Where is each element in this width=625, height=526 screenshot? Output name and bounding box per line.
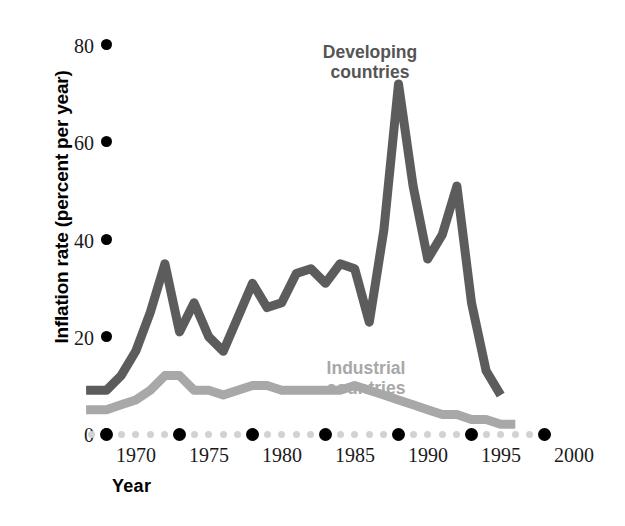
x-tick-dot-minor (220, 431, 227, 438)
series-line-developing-countries (86, 84, 501, 395)
x-tick-dot-major (100, 428, 113, 441)
inflation-rate-line-chart: Inflation rate (percent per year) 80 60 … (0, 0, 625, 526)
x-tick-label-1980: 1980 (247, 444, 317, 467)
x-tick-dot-minor (410, 431, 417, 438)
x-tick-label-1990: 1990 (393, 444, 463, 467)
x-tick-dot-minor (293, 431, 300, 438)
x-tick-dot-minor (191, 431, 198, 438)
developing-countries-label: Developing countries (300, 42, 440, 82)
x-tick-dot-major (173, 428, 186, 441)
x-tick-dot-minor (118, 431, 125, 438)
x-tick-dot-major (465, 428, 478, 441)
industrial-countries-label: Industrial countries (296, 358, 436, 398)
x-tick-dot-major (246, 428, 259, 441)
x-tick-dot-minor (337, 431, 344, 438)
x-tick-label-1970: 1970 (101, 444, 171, 467)
x-tick-dot-minor (366, 431, 373, 438)
x-tick-label-1975: 1975 (174, 444, 244, 467)
x-tick-dot-minor (147, 431, 154, 438)
x-tick-dot-minor (264, 431, 271, 438)
x-tick-label-1995: 1995 (466, 444, 536, 467)
x-axis-title: Year (112, 476, 151, 497)
x-tick-dot-minor (439, 431, 446, 438)
x-tick-dot-major (538, 428, 551, 441)
x-tick-dot-major (319, 428, 332, 441)
x-tick-dot-major (392, 428, 405, 441)
x-tick-label-2000: 2000 (539, 444, 609, 467)
x-tick-dot-minor (483, 431, 490, 438)
x-tick-label-1985: 1985 (320, 444, 390, 467)
x-tick-dot-minor (512, 431, 519, 438)
